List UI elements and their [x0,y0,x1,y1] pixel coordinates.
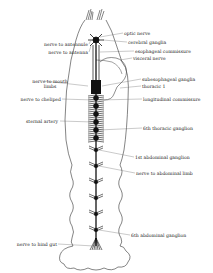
leader-line [100,33,123,37]
ganglion [94,96,99,101]
visceral-nerve-line [96,60,122,74]
abdomen-outline-left [70,165,74,246]
segmental-nerve [96,133,104,134]
label-nerve-to-antennule: nerve to antennule [44,42,88,47]
leader-line [99,230,130,235]
abdomen-outline-right [119,165,123,246]
leader-line [120,58,132,60]
leader-line [120,86,141,88]
label-1st-abdominal-ganglion: 1st abdominal ganglion [135,155,190,160]
label-sternal-artery: sternal artery [26,119,58,124]
leader-line [89,40,91,44]
leader-line [99,150,134,157]
segmental-nerve [88,133,96,134]
tail-fan [60,246,131,270]
leader-line [62,99,94,100]
label-nerve-to-cheliped: nerve to cheliped [20,97,61,102]
leader-line [99,99,142,100]
segmental-nerve [88,141,96,142]
ganglion [94,128,99,133]
thorax-outline-left [65,100,72,165]
leader-line [89,46,91,52]
thorax-outline-right [120,62,128,165]
label-longitudinal-commissure: longitudinal commissure [143,97,201,102]
label-nerve-to-mouth-limbs: nerve to mouth limbs [30,79,70,89]
label-optic-nerve: optic nerve [124,31,150,36]
leader-line [58,244,94,246]
leader-line [102,79,141,86]
segmental-nerve [88,125,96,126]
ganglion [94,104,99,109]
leader-line [100,51,134,52]
label-thoracic-1: thoracic 1 [142,84,166,89]
leader-line [99,128,142,130]
label-nerve-to-antenna: nerve to antenna [48,50,88,55]
label-esophageal-commissure: esophageal commissure [135,49,191,54]
ganglion [94,120,99,125]
segmental-nerve [88,101,96,102]
label-subesophageal-ganglia: subesophageal ganglia [142,77,195,82]
label-visceral-nerve: visceral nerve [133,56,166,61]
subesophageal-ganglia-mark [91,80,101,94]
segmental-nerve [96,141,104,142]
label-cerebral-ganglia: cerebral ganglia [128,40,166,45]
segmental-nerve [96,109,104,110]
antennae-bristles [86,9,104,20]
segmental-nerve [96,117,104,118]
segmental-nerve [88,117,96,118]
label-6th-thoracic-ganglion: 6th thoracic ganglion [143,126,193,131]
segmental-nerve [88,109,96,110]
segmental-nerve [96,101,104,102]
label-nerve-to-hind-gut: nerve to hind gut [17,242,57,247]
label-6th-abdominal-ganglion: 6th abdominal ganglion [131,233,186,238]
ganglion [94,136,99,141]
label-nerve-to-abdominal-limb: nerve to abdominal limb [136,171,193,176]
ganglion [94,112,99,117]
segmental-nerve [96,125,104,126]
leader-line [99,166,135,173]
stomach-outline [100,58,127,101]
